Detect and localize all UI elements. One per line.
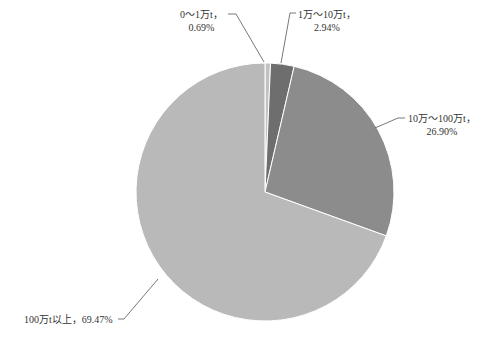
slice-label-name: 1万～10万t， xyxy=(298,8,356,21)
slice-label-pct: 26.90% xyxy=(408,125,476,138)
slice-label-name: 10万～100万t， xyxy=(408,112,476,125)
slice-label-2: 10万～100万t， 26.90% xyxy=(408,112,476,138)
leader-line-0 xyxy=(228,14,264,62)
slice-label-0: 0～1万t， 0.69% xyxy=(180,8,223,34)
slice-label-1: 1万～10万t， 2.94% xyxy=(298,8,356,34)
slice-label-3: 100万t以上，69.47% xyxy=(24,313,113,326)
pie-chart xyxy=(0,0,498,346)
slice-label-pct: 0.69% xyxy=(180,21,223,34)
leader-line-2 xyxy=(375,118,405,128)
leader-line-1 xyxy=(281,13,296,63)
slice-label-pct: 2.94% xyxy=(298,21,356,34)
leader-line-3 xyxy=(118,279,158,319)
slice-label-name: 100万t以上，69.47% xyxy=(24,313,113,326)
slice-label-name: 0～1万t， xyxy=(180,8,223,21)
